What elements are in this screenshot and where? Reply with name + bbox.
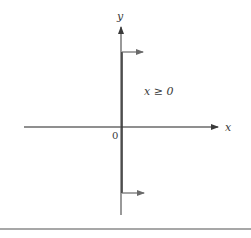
region-diagram [0,0,251,238]
y-axis-label: y [117,11,123,22]
region-condition-label: x ≥ 0 [144,86,173,97]
x-axis-label: x [225,122,231,133]
origin-label: 0 [112,131,118,141]
